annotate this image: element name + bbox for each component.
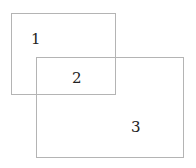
- label-region-3: 3: [131, 120, 141, 135]
- label-region-1: 1: [31, 32, 41, 47]
- rectangle-3: [36, 57, 184, 158]
- label-region-2-overlap: 2: [72, 71, 82, 86]
